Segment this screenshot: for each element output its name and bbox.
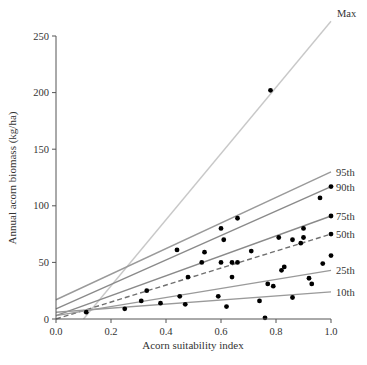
x-tick-label: 0.6 bbox=[214, 326, 227, 337]
x-tick-label: 0.4 bbox=[159, 326, 173, 337]
data-point bbox=[158, 301, 163, 306]
data-point bbox=[219, 226, 224, 231]
data-point bbox=[298, 241, 303, 246]
data-point bbox=[329, 214, 334, 219]
x-axis-title: Acorn suitability index bbox=[142, 339, 244, 351]
data-point bbox=[235, 216, 240, 221]
label-50th: 50th bbox=[336, 229, 355, 240]
label-25th: 25th bbox=[336, 265, 355, 276]
data-point bbox=[307, 276, 312, 281]
data-point bbox=[122, 306, 127, 311]
data-point bbox=[301, 226, 306, 231]
data-point bbox=[219, 260, 224, 265]
data-point bbox=[290, 237, 295, 242]
data-point bbox=[84, 310, 89, 315]
data-point bbox=[329, 253, 334, 258]
y-tick-label: 100 bbox=[33, 200, 49, 211]
line-max bbox=[84, 21, 332, 319]
data-point bbox=[329, 184, 334, 189]
data-point bbox=[320, 261, 325, 266]
line-90th bbox=[56, 187, 331, 309]
x-tick-label: 0.8 bbox=[269, 326, 282, 337]
data-point bbox=[221, 237, 226, 242]
y-tick-label: 150 bbox=[33, 144, 49, 155]
x-tick-label: 0.2 bbox=[104, 326, 117, 337]
y-axis-title: Annual acorn biomass (kg/ha) bbox=[6, 111, 19, 244]
scatter-chart: 0.00.20.40.60.81.0 050100150200250 Max95… bbox=[0, 0, 367, 365]
y-tick-label: 200 bbox=[33, 87, 49, 98]
data-point bbox=[249, 249, 254, 254]
x-axis-ticks: 0.00.20.40.60.81.0 bbox=[49, 319, 337, 337]
line-labels: Max95th90th75th50th25th10th bbox=[336, 8, 357, 298]
percentile-lines bbox=[56, 21, 331, 319]
label-max: Max bbox=[337, 8, 357, 19]
data-point bbox=[230, 275, 235, 280]
data-point bbox=[186, 275, 191, 280]
data-point bbox=[263, 315, 268, 320]
data-point bbox=[301, 235, 306, 240]
y-tick-label: 250 bbox=[33, 31, 49, 42]
y-axis-ticks: 050100150200250 bbox=[33, 31, 56, 325]
x-tick-label: 1.0 bbox=[324, 326, 337, 337]
data-point bbox=[309, 282, 314, 287]
data-point bbox=[183, 302, 188, 307]
label-90th: 90th bbox=[336, 182, 355, 193]
data-point bbox=[282, 265, 287, 270]
data-point bbox=[202, 250, 207, 255]
data-point bbox=[257, 298, 262, 303]
data-point bbox=[271, 284, 276, 289]
data-point bbox=[265, 282, 270, 287]
label-10th: 10th bbox=[336, 287, 355, 298]
label-75th: 75th bbox=[336, 211, 355, 222]
data-point bbox=[224, 304, 229, 309]
x-tick-label: 0.0 bbox=[49, 326, 62, 337]
data-point bbox=[235, 260, 240, 265]
data-point bbox=[144, 288, 149, 293]
data-point bbox=[329, 232, 334, 237]
data-point bbox=[276, 235, 281, 240]
data-point bbox=[290, 295, 295, 300]
data-points bbox=[84, 88, 334, 320]
label-95th: 95th bbox=[336, 167, 355, 178]
y-tick-label: 50 bbox=[39, 257, 50, 268]
line-95th bbox=[56, 172, 331, 300]
data-point bbox=[318, 195, 323, 200]
line-75th bbox=[56, 216, 331, 316]
data-point bbox=[175, 248, 180, 253]
data-point bbox=[230, 260, 235, 265]
data-point bbox=[177, 294, 182, 299]
y-tick-label: 0 bbox=[44, 314, 49, 325]
data-point bbox=[199, 260, 204, 265]
data-point bbox=[216, 294, 221, 299]
data-point bbox=[139, 298, 144, 303]
data-point bbox=[268, 88, 273, 93]
